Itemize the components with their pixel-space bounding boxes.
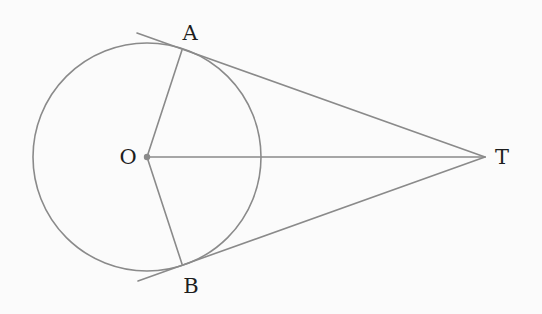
label-b: B [183, 274, 198, 298]
radius-ob [147, 157, 182, 264]
label-a: A [181, 21, 198, 45]
tangent-line-tb [138, 157, 485, 281]
tangent-line-ta [137, 33, 485, 157]
tangent-diagram: O A B T [0, 0, 542, 314]
radius-oa [147, 50, 182, 157]
label-o: O [119, 145, 136, 169]
label-t: T [495, 145, 509, 169]
center-point-dot [144, 154, 150, 160]
